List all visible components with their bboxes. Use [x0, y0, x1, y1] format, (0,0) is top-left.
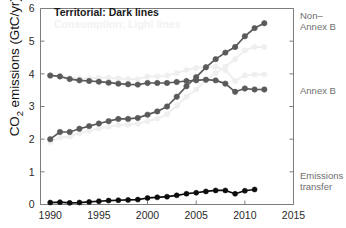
data-point	[135, 121, 140, 126]
data-point	[233, 191, 238, 196]
data-point	[125, 76, 130, 81]
y-axis-tick-label: 3	[29, 100, 35, 112]
y-axis-tick-label: 6	[29, 2, 35, 14]
x-axis-tick-label: 1995	[87, 209, 111, 221]
x-axis-tick-label: 2015	[282, 209, 306, 221]
x-axis-tick-label: 2010	[233, 209, 257, 221]
data-point	[96, 79, 101, 84]
y-axis-label-subscript: 2	[14, 111, 25, 116]
data-point	[233, 78, 238, 83]
data-point	[116, 116, 121, 121]
data-point	[67, 129, 72, 134]
data-point	[145, 74, 150, 79]
data-point	[155, 195, 160, 200]
data-point	[184, 94, 189, 99]
y-axis-label-pre: CO	[7, 116, 22, 136]
data-point	[135, 82, 140, 87]
chart-plot: 0123456199019952000200520102015	[0, 0, 346, 228]
data-point	[165, 194, 170, 199]
data-point	[242, 188, 247, 193]
data-point	[155, 116, 160, 121]
data-point	[145, 80, 150, 85]
data-point	[184, 191, 189, 196]
data-point	[116, 198, 121, 203]
data-point	[242, 34, 247, 39]
data-point	[145, 195, 150, 200]
data-point	[77, 126, 82, 131]
data-point	[203, 65, 208, 70]
data-point	[174, 103, 179, 108]
data-point	[262, 72, 267, 77]
data-point	[232, 89, 237, 94]
data-point	[106, 75, 111, 80]
data-point	[242, 73, 247, 78]
series-label-emissions-transfer: Emissions transfer	[300, 170, 343, 192]
data-point	[67, 200, 72, 205]
data-point	[252, 44, 257, 49]
data-point	[262, 87, 267, 92]
data-point	[184, 78, 189, 83]
data-point	[125, 122, 130, 127]
data-point	[203, 189, 208, 194]
data-point	[184, 67, 189, 72]
data-point	[184, 84, 189, 89]
data-point	[174, 71, 179, 76]
y-axis-tick-label: 5	[29, 35, 35, 47]
data-point	[96, 126, 101, 131]
data-point	[116, 76, 121, 81]
data-point	[223, 188, 228, 193]
data-point	[194, 190, 199, 195]
data-point	[155, 74, 160, 79]
x-axis-tick-label: 1990	[39, 209, 63, 221]
y-axis-tick-label: 1	[29, 166, 35, 178]
data-point	[125, 116, 130, 121]
data-point	[48, 73, 53, 78]
data-point	[194, 65, 199, 70]
data-point	[262, 44, 267, 49]
data-point	[252, 72, 257, 77]
data-point	[48, 200, 53, 205]
data-point	[155, 109, 160, 114]
data-point	[242, 48, 247, 53]
data-point	[174, 193, 179, 198]
data-point	[252, 87, 257, 92]
data-point	[57, 74, 62, 79]
y-axis-label-post: emissions (GtC/yr)	[7, 0, 22, 111]
data-point	[87, 199, 92, 204]
series-emissions-transfer	[48, 187, 257, 205]
data-point	[194, 87, 199, 92]
data-point	[96, 121, 101, 126]
data-point	[252, 187, 257, 192]
series-label-annex-b: Annex B	[300, 85, 336, 96]
data-point	[164, 112, 169, 117]
y-axis-tick-label: 4	[29, 68, 35, 80]
data-point	[67, 76, 72, 81]
data-point	[262, 21, 267, 26]
data-point	[86, 123, 91, 128]
data-point	[48, 136, 53, 141]
data-point	[116, 81, 121, 86]
data-point	[164, 104, 169, 109]
data-point	[223, 50, 228, 55]
x-axis-tick-label: 2005	[185, 209, 209, 221]
data-point	[106, 198, 111, 203]
data-point	[203, 77, 208, 82]
data-point	[242, 86, 247, 91]
data-point	[57, 200, 62, 205]
chart-title-territorial: Territorial: Dark lines	[54, 6, 159, 18]
data-point	[223, 64, 228, 69]
data-point	[106, 124, 111, 129]
data-point	[155, 80, 160, 85]
data-point	[125, 82, 130, 87]
data-point	[252, 25, 257, 30]
data-point	[135, 197, 140, 202]
data-point	[193, 74, 198, 79]
x-axis-tick-label: 2000	[136, 209, 160, 221]
chart-title-consumption: Consumption: Light lines	[54, 18, 181, 30]
data-point	[213, 78, 218, 83]
data-point	[96, 199, 101, 204]
y-axis-tick-label: 0	[29, 198, 35, 210]
data-point	[145, 119, 150, 124]
data-point	[164, 73, 169, 78]
data-point	[135, 76, 140, 81]
